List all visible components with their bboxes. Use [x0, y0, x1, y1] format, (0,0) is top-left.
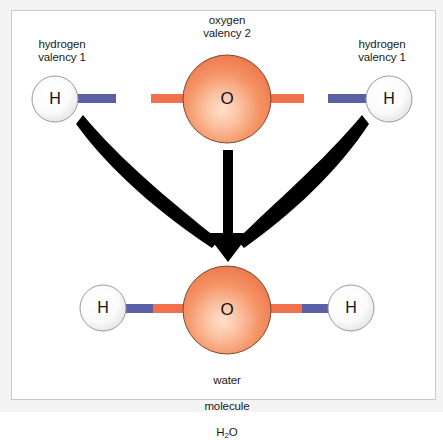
bond-product-left-blue — [122, 304, 153, 313]
bond-reactant-hydrogen-right — [328, 94, 368, 103]
atom-reactant-hydrogen-left — [32, 76, 78, 122]
atom-reactant-oxygen — [183, 55, 271, 143]
formula-h: H — [216, 426, 224, 438]
label-water-molecule: water molecule H2O — [179, 361, 275, 440]
atom-reactant-hydrogen-right — [366, 76, 412, 122]
reaction-arrow-right — [237, 115, 369, 248]
atom-product-oxygen — [183, 266, 271, 354]
reaction-arrowhead — [206, 233, 250, 262]
label-water-formula: H2O — [216, 426, 237, 438]
label-water-line1: water — [213, 374, 241, 386]
label-water-line2: molecule — [204, 400, 249, 412]
atom-product-hydrogen-left — [80, 285, 126, 331]
formula-subscript-2: 2 — [225, 431, 229, 440]
label-hydrogen-left: hydrogen valency 1 — [14, 38, 110, 64]
reaction-arrow-left — [76, 115, 219, 248]
formula-o: O — [229, 426, 238, 438]
atom-product-hydrogen-right — [328, 285, 374, 331]
bond-reactant-hydrogen-left — [76, 94, 116, 103]
label-hydrogen-right: hydrogen valency 1 — [334, 38, 430, 64]
reaction-arrow-center — [223, 150, 233, 246]
label-oxygen: oxygen valency 2 — [179, 14, 275, 40]
